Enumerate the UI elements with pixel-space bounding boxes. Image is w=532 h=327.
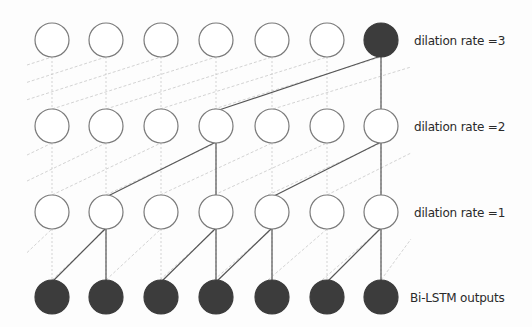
- dashed-diagonal-edge: [273, 67, 411, 109]
- label-dilation-rate-1: dilation rate =1: [414, 206, 505, 220]
- dashed-diagonal-edge: [268, 229, 327, 280]
- empty-node-rate3-1: [89, 23, 123, 57]
- label-dilation-rate-3: dilation rate =3: [414, 34, 505, 48]
- empty-node-rate3-3: [199, 23, 233, 57]
- filled-node-bilstm-3: [199, 280, 233, 314]
- empty-node-rate2-1: [89, 109, 123, 143]
- empty-node-rate1-0: [35, 195, 69, 229]
- filled-node-bilstm-0: [35, 280, 69, 314]
- dashed-diagonal-edge: [52, 57, 216, 109]
- empty-node-rate3-2: [144, 23, 178, 57]
- empty-node-rate2-3: [199, 109, 233, 143]
- filled-node-bilstm-2: [144, 280, 178, 314]
- solid-connections: [52, 56, 381, 282]
- empty-node-rate2-0: [35, 109, 69, 143]
- empty-node-rate1-1: [89, 195, 123, 229]
- filled-node-bilstm-1: [89, 280, 123, 314]
- empty-node-rate1-4: [255, 195, 289, 229]
- dashed-diagonal-edge: [214, 143, 327, 195]
- dashed-diagonal-edge: [160, 57, 327, 109]
- dashed-diagonal-edge: [381, 239, 411, 280]
- dashed-diagonal-edge: [27, 57, 52, 65]
- solid-edge: [52, 228, 106, 282]
- empty-node-rate2-4: [255, 109, 289, 143]
- empty-node-rate1-6: [364, 195, 398, 229]
- dashed-diagonal-edge: [52, 143, 161, 195]
- label-dilation-rate-2: dilation rate =2: [414, 120, 505, 134]
- solid-edge: [161, 228, 216, 282]
- empty-node-rate1-3: [199, 195, 233, 229]
- filled-node-bilstm-5: [310, 280, 344, 314]
- empty-node-rate3-4: [255, 23, 289, 57]
- filled-node-rate3-6: [364, 23, 398, 57]
- empty-node-rate3-5: [310, 23, 344, 57]
- dashed-diagonal-edge: [27, 143, 52, 155]
- dashed-connections: [27, 57, 411, 280]
- dashed-diagonal-edge: [106, 229, 161, 280]
- empty-node-rate1-5: [310, 195, 344, 229]
- dashed-diagonal-edge: [327, 153, 411, 195]
- empty-node-rate1-2: [144, 195, 178, 229]
- dashed-diagonal-edge: [27, 57, 161, 100]
- solid-edge: [216, 228, 272, 282]
- solid-edge: [272, 142, 381, 197]
- label-bilstm-outputs: Bi-LSTM outputs: [410, 291, 505, 305]
- solid-edge: [327, 228, 381, 282]
- empty-node-rate2-5: [310, 109, 344, 143]
- empty-node-rate2-2: [144, 109, 178, 143]
- filled-node-bilstm-4: [255, 280, 289, 314]
- dilated-convolution-diagram: [0, 0, 532, 327]
- filled-node-bilstm-6: [364, 280, 398, 314]
- empty-node-rate2-6: [364, 109, 398, 143]
- dashed-diagonal-edge: [27, 229, 52, 253]
- empty-node-rate3-0: [35, 23, 69, 57]
